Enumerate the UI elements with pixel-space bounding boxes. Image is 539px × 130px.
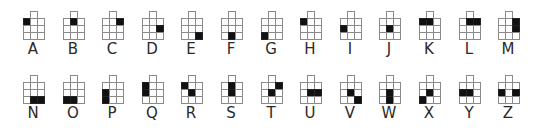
cipher-grid [142, 75, 162, 101]
cipher-grid [63, 11, 83, 37]
letter-glyph-x: X [409, 75, 449, 130]
letter-label: O [53, 105, 93, 121]
letter-glyph-p: P [92, 75, 132, 130]
letter-glyph-t: T [251, 75, 291, 130]
cipher-grid [23, 75, 43, 101]
letter-label: L [449, 41, 489, 57]
letter-label: D [132, 41, 172, 57]
grid-cell-filled [354, 96, 362, 104]
cipher-grid [419, 75, 439, 101]
grid-cell-empty [275, 32, 283, 40]
letter-glyph-w: W [369, 75, 409, 130]
letter-label: K [409, 41, 449, 57]
letter-label: H [290, 41, 330, 57]
cipher-grid [261, 75, 281, 101]
grid-cell-filled [195, 32, 203, 40]
cipher-grid [261, 11, 281, 37]
letter-glyph-z: Z [488, 75, 528, 130]
letter-label: P [92, 105, 132, 121]
letter-glyph-r: R [171, 75, 211, 130]
letter-label: N [13, 105, 53, 121]
cipher-grid [23, 11, 43, 37]
letter-glyph-o: O [53, 75, 93, 130]
grid-cell-filled [37, 96, 45, 104]
letter-glyph-e: E [171, 11, 211, 73]
cipher-grid [340, 75, 360, 101]
cipher-grid [221, 75, 241, 101]
grid-cell-empty [156, 32, 164, 40]
cipher-grid [498, 75, 518, 101]
grid-cell-empty [393, 32, 401, 40]
letter-glyph-g: G [251, 11, 291, 73]
letter-label: Z [488, 105, 528, 121]
letter-glyph-a: A [13, 11, 53, 73]
letter-glyph-s: S [211, 75, 251, 130]
grid-cell-empty [393, 96, 401, 104]
cipher-grid [379, 11, 399, 37]
grid-cell-empty [433, 96, 441, 104]
grid-cell-empty [37, 32, 45, 40]
letter-glyph-i: I [330, 11, 370, 73]
letter-glyph-l: L [449, 11, 489, 73]
letter-glyph-d: D [132, 11, 172, 73]
letter-glyph-m: M [488, 11, 528, 73]
letter-glyph-q: Q [132, 75, 172, 130]
letter-label: S [211, 105, 251, 121]
cipher-grid [300, 75, 320, 101]
cipher-grid [181, 75, 201, 101]
letter-label: R [171, 105, 211, 121]
grid-cell-empty [512, 96, 520, 104]
letter-label: A [13, 41, 53, 57]
grid-cell-empty [354, 32, 362, 40]
cipher-grid [63, 75, 83, 101]
cipher-grid [419, 11, 439, 37]
grid-cell-empty [77, 32, 85, 40]
letter-glyph-j: J [369, 11, 409, 73]
cipher-grid [181, 11, 201, 37]
letter-label: W [369, 105, 409, 121]
letter-glyph-h: H [290, 11, 330, 73]
grid-cell-empty [473, 96, 481, 104]
cipher-grid [142, 11, 162, 37]
grid-cell-empty [275, 96, 283, 104]
letter-label: M [488, 41, 528, 57]
letter-label: U [290, 105, 330, 121]
cipher-grid [340, 11, 360, 37]
cipher-grid [102, 75, 122, 101]
letter-label: G [251, 41, 291, 57]
grid-cell-empty [473, 32, 481, 40]
letter-label: I [330, 41, 370, 57]
grid-cell-empty [512, 32, 520, 40]
letter-glyph-k: K [409, 11, 449, 73]
cipher-grid [300, 11, 320, 37]
grid-cell-empty [195, 96, 203, 104]
letter-label: Y [449, 105, 489, 121]
cipher-grid [379, 75, 399, 101]
grid-cell-empty [77, 96, 85, 104]
letter-label: E [171, 41, 211, 57]
letter-glyph-n: N [13, 75, 53, 130]
letter-glyph-b: B [53, 11, 93, 73]
letter-label: B [53, 41, 93, 57]
cipher-grid [498, 11, 518, 37]
grid-cell-empty [433, 32, 441, 40]
letter-glyph-c: C [92, 11, 132, 73]
cipher-grid [459, 11, 479, 37]
letter-label: J [369, 41, 409, 57]
letter-label: Q [132, 105, 172, 121]
letter-glyph-u: U [290, 75, 330, 130]
cipher-grid [459, 75, 479, 101]
letter-label: C [92, 41, 132, 57]
letter-label: F [211, 41, 251, 57]
grid-cell-empty [314, 96, 322, 104]
letter-glyph-f: F [211, 11, 251, 73]
grid-cell-empty [116, 96, 124, 104]
grid-cell-empty [235, 96, 243, 104]
cipher-grid [102, 11, 122, 37]
letter-glyph-y: Y [449, 75, 489, 130]
letter-label: V [330, 105, 370, 121]
cipher-grid [221, 11, 241, 37]
letter-label: T [251, 105, 291, 121]
grid-cell-empty [156, 96, 164, 104]
letter-glyph-v: V [330, 75, 370, 130]
